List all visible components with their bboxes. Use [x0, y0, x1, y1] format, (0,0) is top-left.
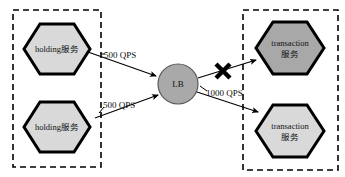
node-transaction-2[interactable] [256, 105, 324, 157]
node-holding-1[interactable] [24, 24, 90, 74]
diagram-canvas: holding服务 holding服务 LB transaction 服务 tr… [0, 0, 345, 177]
blocked-x-icon [216, 64, 230, 78]
edge-label-holding2-lb: 500 QPS [103, 100, 135, 110]
node-holding-2[interactable] [24, 102, 90, 152]
node-label-lb: LB [158, 79, 198, 89]
edge-label-lb-transaction2: 1000 QPS [206, 88, 243, 98]
edge-label-holding1-lb: 500 QPS [104, 50, 136, 60]
node-transaction-1[interactable] [256, 22, 324, 74]
